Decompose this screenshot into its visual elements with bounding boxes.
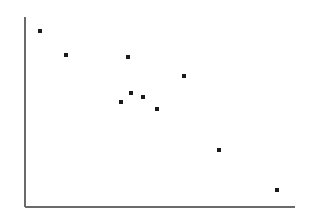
data-points-group xyxy=(38,29,278,191)
data-point xyxy=(38,29,41,32)
data-point xyxy=(217,148,220,151)
data-point xyxy=(155,107,158,110)
data-point xyxy=(64,53,67,56)
data-point xyxy=(126,55,129,58)
data-point xyxy=(141,95,144,98)
data-point xyxy=(119,100,122,103)
axes-group xyxy=(25,17,295,207)
data-point xyxy=(129,91,132,94)
scatter-plot-figure xyxy=(0,0,311,218)
data-point xyxy=(182,74,185,77)
plot-canvas xyxy=(0,0,311,218)
data-point xyxy=(275,188,278,191)
